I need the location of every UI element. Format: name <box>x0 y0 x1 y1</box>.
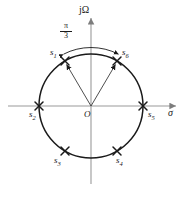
pole-marker-s4 <box>113 147 121 155</box>
pole-label-s6: s6 <box>122 48 129 59</box>
pole-marker-s3 <box>61 147 69 155</box>
vector-to-s6 <box>91 64 116 106</box>
angle-label-pi-over-3: π 3 <box>60 22 72 41</box>
sigma-axis-label: σ <box>168 108 173 118</box>
figure-canvas <box>0 0 190 200</box>
pole-marker-s6 <box>113 57 121 65</box>
pole-label-s5: s5 <box>148 110 155 121</box>
pole-label-s2: s2 <box>29 110 36 121</box>
pole-label-s3: s3 <box>54 156 61 167</box>
pole-marker-s1 <box>61 57 69 65</box>
angle-numerator: π <box>60 22 72 30</box>
pole-label-s4: s4 <box>116 156 123 167</box>
vector-to-s1 <box>67 64 92 106</box>
s-plane-pole-zero-figure: jΩ σ π 3 O s1 s2 s3 s4 s5 s6 <box>0 0 190 200</box>
angle-denominator: 3 <box>60 32 72 40</box>
origin-label: O <box>84 110 91 119</box>
j-omega-axis-label: jΩ <box>79 5 89 15</box>
pole-label-s1: s1 <box>50 48 57 59</box>
